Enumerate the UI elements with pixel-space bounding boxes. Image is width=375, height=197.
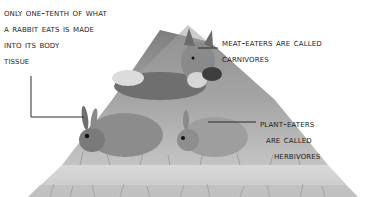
bottom-tier-grass bbox=[28, 165, 358, 197]
bird-prey bbox=[202, 67, 222, 81]
carnivores-line-2: carnivores bbox=[222, 50, 322, 66]
rabbit-energy-line-4: tissue bbox=[4, 52, 107, 68]
herbivores-line-2: are called bbox=[260, 131, 320, 147]
leader-line-rabbit bbox=[31, 76, 84, 117]
rabbit-energy-label: Only one-tenth of what a rabbit eats is … bbox=[4, 4, 107, 68]
herbivores-label: Plant-eaters are called herbivores bbox=[260, 115, 320, 163]
rabbit-energy-line-2: a rabbit eats is made bbox=[4, 20, 107, 36]
food-pyramid-diagram: Only one-tenth of what a rabbit eats is … bbox=[0, 0, 375, 197]
rabbit-energy-line-1: Only one-tenth of what bbox=[4, 4, 107, 20]
carnivores-label: Meat-eaters are called carnivores bbox=[222, 34, 322, 66]
carnivores-line-1: Meat-eaters are called bbox=[222, 34, 322, 50]
rabbit-energy-line-3: into its body bbox=[4, 36, 107, 52]
herbivores-line-3: herbivores bbox=[260, 147, 320, 163]
herbivores-line-1: Plant-eaters bbox=[260, 115, 320, 131]
